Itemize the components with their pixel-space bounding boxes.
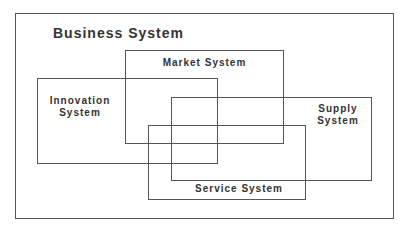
business-system-title: Business System (53, 26, 184, 40)
supply-system-label-line2: System (308, 114, 368, 128)
service-system-label: Service System (172, 182, 306, 196)
market-system-label: Market System (125, 56, 284, 70)
innovation-system-label-line2: System (45, 106, 115, 120)
